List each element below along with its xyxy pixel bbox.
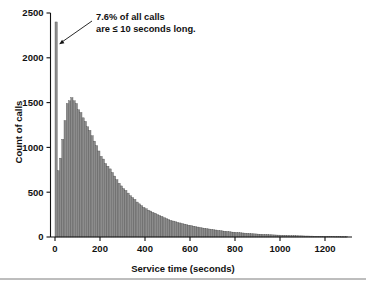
histogram-bar: [213, 230, 215, 237]
histogram-bar: [111, 172, 113, 237]
annotation-line-1: 7.6% of all calls: [96, 12, 165, 22]
histogram-bar: [190, 226, 192, 237]
histogram-bar: [181, 224, 183, 237]
histogram-bar: [105, 164, 107, 237]
histogram-bar: [116, 180, 118, 237]
histogram-bar: [159, 216, 161, 238]
histogram-bar: [244, 233, 246, 237]
histogram-bar: [132, 198, 134, 237]
y-tick-label: 1500: [22, 97, 43, 108]
histogram-bar: [208, 229, 210, 237]
histogram-bar: [150, 211, 152, 237]
histogram-bar: [237, 233, 239, 237]
histogram-bar: [84, 121, 86, 237]
histogram-bar: [219, 231, 221, 237]
histogram-bar: [163, 218, 165, 237]
histogram-bar: [93, 141, 95, 237]
y-tick-label: 1000: [22, 142, 43, 153]
service-time-histogram: 05001000150020002500 0200400600800100012…: [0, 0, 366, 287]
histogram-bar: [118, 183, 120, 237]
histogram-bar: [123, 189, 125, 237]
histogram-bar: [174, 222, 176, 237]
histogram-bar: [64, 121, 66, 237]
y-tick-label: 2500: [22, 7, 43, 18]
histogram-bar: [215, 230, 217, 237]
x-tick-label: 200: [92, 243, 108, 254]
x-tick-label: 400: [137, 243, 153, 254]
histogram-bar: [206, 229, 208, 237]
histogram-bar: [154, 213, 156, 237]
x-axis-title: Service time (seconds): [131, 263, 235, 274]
x-tick-label: 0: [52, 243, 57, 254]
histogram-bar: [78, 110, 80, 237]
histogram-bar: [109, 169, 111, 237]
histogram-bar: [57, 171, 59, 237]
histogram-bar: [73, 101, 75, 237]
histogram-bar: [172, 221, 174, 237]
histogram-bar: [66, 104, 68, 238]
histogram-bar: [179, 223, 181, 237]
histogram-bar: [62, 139, 64, 237]
y-axis-title: Count of calls: [13, 101, 24, 164]
x-tick-label: 800: [227, 243, 243, 254]
x-tick-label: 1000: [269, 243, 290, 254]
histogram-bar: [222, 231, 224, 237]
y-tick-label: 0: [38, 231, 43, 242]
histogram-bar: [102, 159, 104, 237]
histogram-bar: [82, 118, 84, 237]
histogram-bar: [199, 228, 201, 238]
x-tick-label: 600: [182, 243, 198, 254]
histogram-bar: [226, 231, 228, 237]
histogram-bar: [201, 228, 203, 237]
histogram-bar: [177, 222, 179, 237]
histogram-bar: [125, 190, 127, 237]
histogram-bar: [240, 233, 242, 237]
y-tick-label: 500: [28, 187, 44, 198]
histogram-bar: [60, 158, 62, 237]
histogram-bar: [143, 207, 145, 237]
histogram-bar: [210, 229, 212, 237]
histogram-bar: [231, 232, 233, 237]
histogram-bar: [96, 146, 98, 237]
histogram-bar: [129, 196, 131, 237]
histogram-figure: 05001000150020002500 0200400600800100012…: [0, 0, 366, 287]
histogram-bar: [204, 228, 206, 237]
histogram-bar: [168, 220, 170, 237]
x-tick-label: 1200: [314, 243, 335, 254]
histogram-bar: [170, 220, 172, 237]
histogram-bar: [87, 127, 89, 237]
histogram-bar: [98, 151, 100, 237]
histogram-bar: [228, 232, 230, 237]
histogram-bar: [224, 231, 226, 237]
histogram-bar: [91, 136, 93, 237]
histogram-bar: [152, 212, 154, 237]
histogram-bar: [188, 225, 190, 237]
histogram-bar: [161, 216, 163, 237]
histogram-bar: [195, 227, 197, 237]
histogram-bar: [145, 209, 147, 237]
histogram-bar: [114, 176, 116, 237]
histogram-bar: [136, 202, 138, 237]
histogram-bar: [235, 232, 237, 237]
histogram-bar: [80, 112, 82, 237]
histogram-bar: [217, 230, 219, 237]
histogram-bar: [120, 186, 122, 237]
histogram-bar: [183, 224, 185, 237]
histogram-bar: [100, 156, 102, 237]
histogram-bar: [147, 210, 149, 237]
histogram-bar: [141, 206, 143, 237]
histogram-bar: [89, 130, 91, 237]
histogram-bar: [186, 225, 188, 237]
histogram-bar: [197, 227, 199, 237]
histogram-bar: [127, 193, 129, 237]
histogram-bar: [69, 101, 71, 237]
histogram-bar: [192, 226, 194, 237]
histogram-bar: [233, 232, 235, 237]
histogram-bar: [246, 233, 248, 237]
histogram-bar: [55, 22, 57, 237]
histogram-bar: [156, 215, 158, 237]
histogram-bar: [138, 204, 140, 237]
y-tick-label: 2000: [22, 52, 43, 63]
histogram-bar: [165, 219, 167, 237]
histogram-bar: [71, 98, 73, 237]
